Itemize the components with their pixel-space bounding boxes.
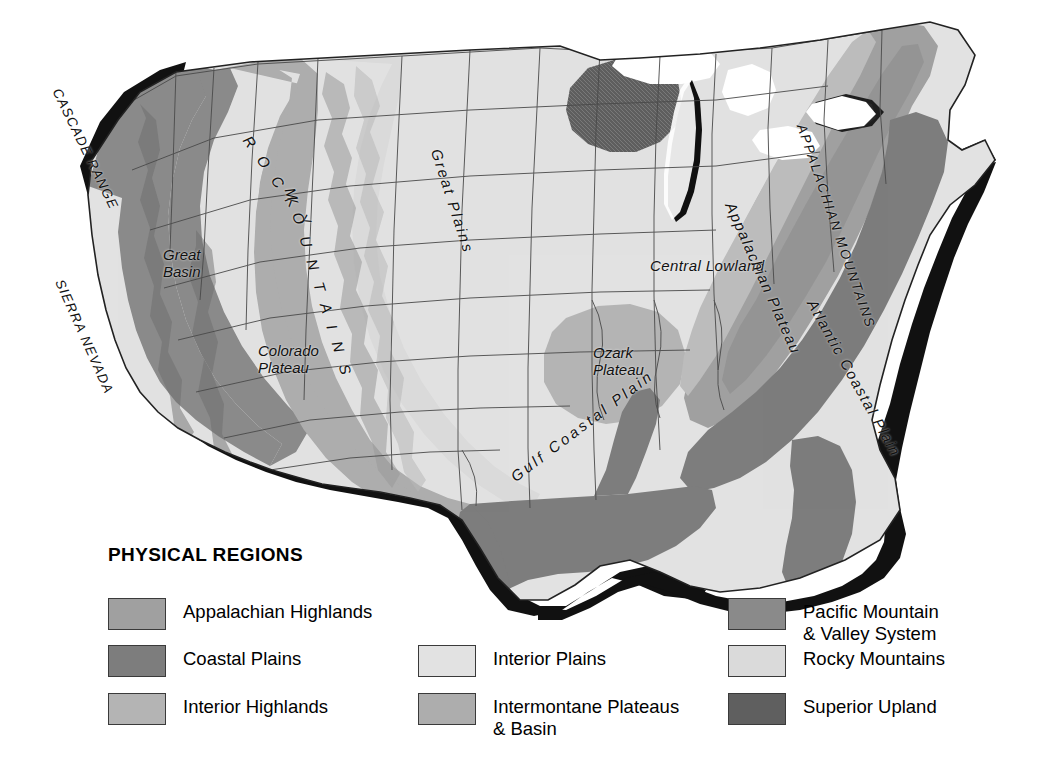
legend-label-interior-highlands: Interior Highlands: [183, 693, 328, 718]
legend-label-superior-upland: Superior Upland: [803, 693, 937, 718]
legend-swatch-intermontane-plateaus: [418, 693, 476, 725]
map-legend: PHYSICAL REGIONS Appalachian HighlandsCo…: [0, 0, 1057, 769]
legend-item-appalachian-highlands[interactable]: Appalachian Highlands: [108, 598, 372, 630]
legend-label-pacific-mountain-valley: Pacific Mountain & Valley System: [803, 598, 939, 644]
legend-swatch-interior-plains: [418, 645, 476, 677]
legend-item-interior-plains[interactable]: Interior Plains: [418, 645, 606, 677]
legend-item-superior-upland[interactable]: Superior Upland: [728, 693, 937, 725]
legend-swatch-appalachian-highlands: [108, 598, 166, 630]
legend-swatch-interior-highlands: [108, 693, 166, 725]
legend-item-interior-highlands[interactable]: Interior Highlands: [108, 693, 328, 725]
legend-title: PHYSICAL REGIONS: [108, 544, 303, 566]
legend-label-appalachian-highlands: Appalachian Highlands: [183, 598, 372, 623]
legend-label-intermontane-plateaus: Intermontane Plateaus & Basin: [493, 693, 679, 739]
legend-swatch-superior-upland: [728, 693, 786, 725]
legend-item-pacific-mountain-valley[interactable]: Pacific Mountain & Valley System: [728, 598, 939, 644]
legend-item-intermontane-plateaus[interactable]: Intermontane Plateaus & Basin: [418, 693, 679, 739]
legend-swatch-pacific-mountain-valley: [728, 598, 786, 630]
legend-label-coastal-plains: Coastal Plains: [183, 645, 301, 670]
legend-label-rocky-mountains: Rocky Mountains: [803, 645, 945, 670]
legend-swatch-rocky-mountains: [728, 645, 786, 677]
legend-label-interior-plains: Interior Plains: [493, 645, 606, 670]
legend-item-rocky-mountains[interactable]: Rocky Mountains: [728, 645, 945, 677]
legend-swatch-coastal-plains: [108, 645, 166, 677]
legend-item-coastal-plains[interactable]: Coastal Plains: [108, 645, 301, 677]
